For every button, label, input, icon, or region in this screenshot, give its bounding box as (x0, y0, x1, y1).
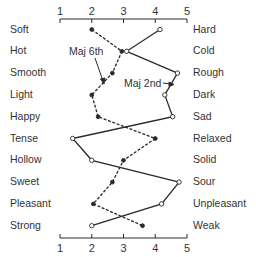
left-label-soft: Soft (10, 23, 29, 35)
right-label-hard: Hard (193, 23, 216, 35)
open-circle-marker (124, 49, 128, 53)
tick-label: 4 (149, 242, 161, 254)
filled-dot-marker (122, 158, 126, 162)
series-lines (73, 30, 179, 226)
tick-label: 3 (118, 5, 130, 17)
tick-label: 2 (86, 5, 98, 17)
annotation-maj-2nd: Maj 2nd (123, 77, 162, 89)
left-label-tense: Tense (10, 132, 38, 144)
tick-label: 1 (54, 5, 66, 17)
filled-dot-marker (120, 49, 124, 53)
filled-dot-marker (96, 115, 100, 119)
filled-dot-marker (141, 224, 145, 228)
right-label-solid: Solid (193, 153, 216, 165)
open-circle-marker (90, 158, 94, 162)
filled-dot-marker (110, 71, 114, 75)
right-label-relaxed: Relaxed (193, 132, 232, 144)
tick-label: 2 (86, 242, 98, 254)
left-label-pleasant: Pleasant (10, 197, 51, 209)
right-label-rough: Rough (193, 66, 224, 78)
filled-dot-marker (91, 202, 95, 206)
right-label-unpleasant: Unpleasant (193, 197, 246, 209)
filled-dot-marker (90, 93, 94, 97)
left-label-hollow: Hollow (10, 153, 42, 165)
left-label-smooth: Smooth (10, 66, 46, 78)
right-label-dark: Dark (193, 88, 215, 100)
tick-label: 5 (181, 5, 193, 17)
left-label-sweet: Sweet (10, 175, 39, 187)
open-circle-marker (163, 93, 167, 97)
open-circle-marker (90, 224, 94, 228)
open-circle-marker (71, 136, 75, 140)
right-label-weak: Weak (193, 219, 220, 231)
filled-dot-marker (110, 180, 114, 184)
open-circle-marker (171, 115, 175, 119)
annotation-maj-6th: Maj 6th (68, 45, 104, 57)
annotation-leader-maj-6th (95, 58, 103, 81)
open-circle-marker (177, 180, 181, 184)
left-label-happy: Happy (10, 110, 40, 122)
left-label-light: Light (10, 88, 33, 100)
tick-label: 5 (181, 242, 193, 254)
left-label-hot: Hot (10, 44, 26, 56)
tick-label: 4 (149, 5, 161, 17)
open-circle-marker (158, 27, 162, 31)
open-circle-marker (175, 71, 179, 75)
tick-label: 1 (54, 242, 66, 254)
right-label-cold: Cold (193, 44, 215, 56)
filled-dot-marker (153, 137, 157, 141)
right-label-sad: Sad (193, 110, 212, 122)
left-label-strong: Strong (10, 219, 41, 231)
tick-label: 3 (118, 242, 130, 254)
filled-dot-marker (90, 28, 94, 32)
open-circle-marker (159, 202, 163, 206)
right-label-sour: Sour (193, 175, 215, 187)
